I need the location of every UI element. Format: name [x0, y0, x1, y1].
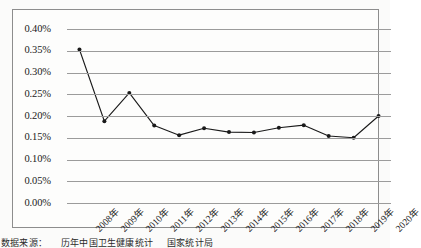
y-gridline	[67, 73, 391, 74]
y-axis-tick-label: 0.30%	[24, 67, 51, 78]
x-axis-tick-label: 2013年	[220, 207, 247, 234]
caption-segment: 历年中国卫生健康统计	[61, 238, 153, 248]
y-axis-tick-label: 0.25%	[24, 89, 51, 100]
caption-segment: 国家统计局	[167, 238, 213, 248]
chart-plot-area: 0.40%0.35%0.30%0.25%0.20%0.15%0.10%0.05%…	[67, 29, 391, 203]
y-axis-tick-label: 0.10%	[24, 154, 51, 165]
y-gridline	[67, 116, 391, 117]
data-point-marker	[177, 133, 181, 137]
data-point-marker	[152, 124, 156, 128]
x-axis-tick-label: 2010年	[145, 207, 172, 234]
data-point-marker	[252, 131, 256, 135]
x-axis-tick-labels: 2008年2009年2010年2011年2012年2013年2014年2015年…	[67, 203, 391, 237]
y-gridline	[67, 138, 391, 139]
y-axis-tick-label: 0.05%	[24, 176, 51, 187]
chart-figure-frame: 0.40%0.35%0.30%0.25%0.20%0.15%0.10%0.05%…	[12, 9, 379, 228]
x-axis-tick-label: 2011年	[170, 207, 197, 234]
data-point-marker	[277, 126, 281, 130]
y-axis-tick-label: 0.00%	[24, 198, 51, 209]
y-axis-tick-label: 0.35%	[24, 45, 51, 56]
y-gridline	[67, 94, 391, 95]
y-axis-tick-label: 0.20%	[24, 111, 51, 122]
x-axis-tick-label: 2014年	[244, 207, 271, 234]
data-point-marker	[302, 123, 306, 127]
x-axis-tick-label: 2012年	[195, 207, 222, 234]
x-axis-tick-label: 2017年	[319, 207, 346, 234]
figure-caption: 数据来源：历年中国卫生健康统计国家统计局	[1, 238, 389, 248]
data-point-marker	[202, 126, 206, 130]
x-axis-tick-label: 2015年	[269, 207, 296, 234]
data-point-marker	[102, 119, 106, 123]
x-axis-tick-label: 2019年	[369, 207, 396, 234]
x-axis-tick-label: 2020年	[394, 207, 421, 234]
y-gridline	[67, 51, 391, 52]
x-axis-tick-label: 2009年	[120, 207, 147, 234]
y-gridline	[67, 181, 391, 182]
x-axis-tick-label: 2008年	[95, 207, 122, 234]
caption-segment: 数据来源：	[1, 238, 47, 248]
data-point-marker	[227, 130, 231, 134]
x-axis-tick-label: 2018年	[344, 207, 371, 234]
y-gridline	[67, 29, 391, 30]
y-axis-tick-label: 0.15%	[24, 132, 51, 143]
y-gridline	[67, 160, 391, 161]
y-axis-tick-label: 0.40%	[24, 24, 51, 35]
x-axis-tick-label: 2016年	[294, 207, 321, 234]
